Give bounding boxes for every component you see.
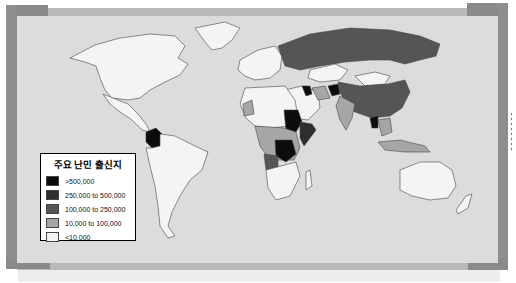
map-legend: 주요 난민 출신지 >500,000 250,000 to 500,000 10… bbox=[40, 153, 136, 241]
region-south-america bbox=[146, 134, 208, 238]
frame-right bbox=[498, 3, 508, 260]
legend-label: <10,000 bbox=[65, 234, 91, 241]
legend-item: >500,000 bbox=[46, 174, 130, 188]
region-indonesia bbox=[378, 140, 430, 152]
legend-swatch bbox=[46, 232, 59, 242]
region-north-america bbox=[70, 34, 188, 100]
region-southeast-asia bbox=[378, 118, 392, 136]
legend-swatch bbox=[46, 176, 59, 186]
legend-label: 250,000 to 500,000 bbox=[65, 192, 125, 199]
region-colombia bbox=[146, 128, 162, 148]
legend-item: 100,000 to 250,000 bbox=[46, 202, 130, 216]
region-mongolia bbox=[355, 72, 390, 86]
region-horn-of-africa bbox=[300, 122, 316, 146]
legend-item: 10,000 to 100,000 bbox=[46, 216, 130, 230]
frame-shadow bbox=[18, 270, 500, 282]
region-russia bbox=[278, 28, 440, 70]
frame-bottom bbox=[17, 263, 501, 270]
frame-left bbox=[6, 5, 17, 258]
region-afghanistan bbox=[328, 84, 340, 96]
legend-label: 10,000 to 100,000 bbox=[65, 220, 121, 227]
region-australia bbox=[400, 162, 456, 200]
region-new-zealand bbox=[456, 194, 472, 214]
legend-label: >500,000 bbox=[65, 178, 94, 185]
legend-title: 주요 난민 출신지 bbox=[46, 157, 130, 171]
region-madagascar bbox=[306, 170, 312, 190]
region-europe bbox=[238, 46, 282, 80]
region-myanmar bbox=[370, 116, 378, 128]
region-greenland bbox=[195, 22, 240, 50]
legend-swatch bbox=[46, 190, 59, 200]
legend-item: <10,000 bbox=[46, 230, 130, 244]
legend-swatch bbox=[46, 218, 59, 228]
frame-corner-top-right bbox=[467, 3, 499, 17]
legend-swatch bbox=[46, 204, 59, 214]
legend-label: 100,000 to 250,000 bbox=[65, 206, 125, 213]
side-caption-marks bbox=[509, 110, 514, 180]
legend-item: 250,000 to 500,000 bbox=[46, 188, 130, 202]
frame-top bbox=[48, 8, 468, 16]
